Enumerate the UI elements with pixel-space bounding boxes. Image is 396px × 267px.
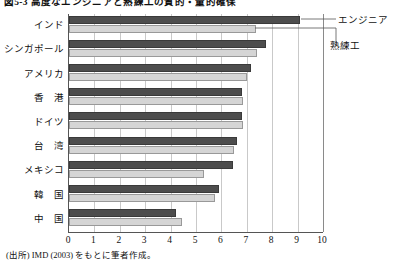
bar-row bbox=[69, 208, 323, 232]
legend-label-engineer: エンジニア bbox=[338, 15, 388, 26]
bar-row bbox=[69, 38, 323, 62]
y-axis-label: インド bbox=[2, 20, 64, 31]
figure-title: 図5-3 高度なエンジニアと熟練工の質的・量的確保 bbox=[4, 0, 396, 8]
y-axis-label: アメリカ bbox=[2, 69, 64, 80]
source-note: (出所) IMD (2003) をもとに筆者作成。 bbox=[6, 250, 156, 261]
bar-1 bbox=[69, 97, 243, 105]
legend-label-skilled: 熟練工 bbox=[330, 41, 360, 52]
bar-0 bbox=[69, 88, 242, 96]
bar-1 bbox=[69, 49, 257, 57]
bar-row bbox=[69, 135, 323, 159]
y-axis-label: 香 港 bbox=[2, 93, 64, 104]
x-tick-label-7: 7 bbox=[234, 234, 258, 246]
bar-1 bbox=[69, 73, 247, 81]
x-tick-label-1: 1 bbox=[81, 234, 105, 246]
y-axis-label: ドイツ bbox=[2, 117, 64, 128]
bar-0 bbox=[69, 16, 300, 24]
x-axis-line bbox=[68, 232, 323, 233]
x-tick-label-4: 4 bbox=[158, 234, 182, 246]
bar-1 bbox=[69, 121, 243, 129]
y-axis-labels: インドシンガポールアメリカ香 港ドイツ台 湾メキシコ韓 国中 国 bbox=[0, 14, 64, 232]
bar-1 bbox=[69, 146, 234, 154]
bar-1 bbox=[69, 170, 204, 178]
x-tick-label-0: 0 bbox=[56, 234, 80, 246]
x-tick-label-2: 2 bbox=[107, 234, 131, 246]
x-tick-label-9: 9 bbox=[285, 234, 309, 246]
bar-row bbox=[69, 111, 323, 135]
bar-row bbox=[69, 14, 323, 38]
bar-row bbox=[69, 62, 323, 86]
bar-row bbox=[69, 159, 323, 183]
plot-area bbox=[68, 14, 323, 232]
x-tick-label-8: 8 bbox=[259, 234, 283, 246]
bar-1 bbox=[69, 218, 182, 226]
figure-page: 図5-3 高度なエンジニアと熟練工の質的・量的確保 インドシンガポールアメリカ香… bbox=[0, 0, 396, 267]
gridline-10 bbox=[323, 14, 324, 232]
bar-0 bbox=[69, 161, 233, 169]
bar-0 bbox=[69, 209, 176, 217]
y-axis-label: シンガポール bbox=[2, 44, 64, 55]
y-axis-label: メキシコ bbox=[2, 165, 64, 176]
bar-0 bbox=[69, 40, 266, 48]
x-axis-tick-labels: 012345678910 bbox=[0, 234, 396, 248]
bar-0 bbox=[69, 137, 237, 145]
y-axis-label: 韓 国 bbox=[2, 190, 64, 201]
bar-row bbox=[69, 87, 323, 111]
bar-row bbox=[69, 184, 323, 208]
y-axis-label: 中 国 bbox=[2, 214, 64, 225]
bar-0 bbox=[69, 64, 251, 72]
bar-1 bbox=[69, 25, 256, 33]
x-tick-label-6: 6 bbox=[208, 234, 232, 246]
x-tick-label-10: 10 bbox=[310, 234, 334, 246]
bar-0 bbox=[69, 185, 219, 193]
x-tick-label-3: 3 bbox=[132, 234, 156, 246]
bar-0 bbox=[69, 112, 242, 120]
y-axis-label: 台 湾 bbox=[2, 141, 64, 152]
bar-1 bbox=[69, 194, 215, 202]
x-tick-label-5: 5 bbox=[183, 234, 207, 246]
